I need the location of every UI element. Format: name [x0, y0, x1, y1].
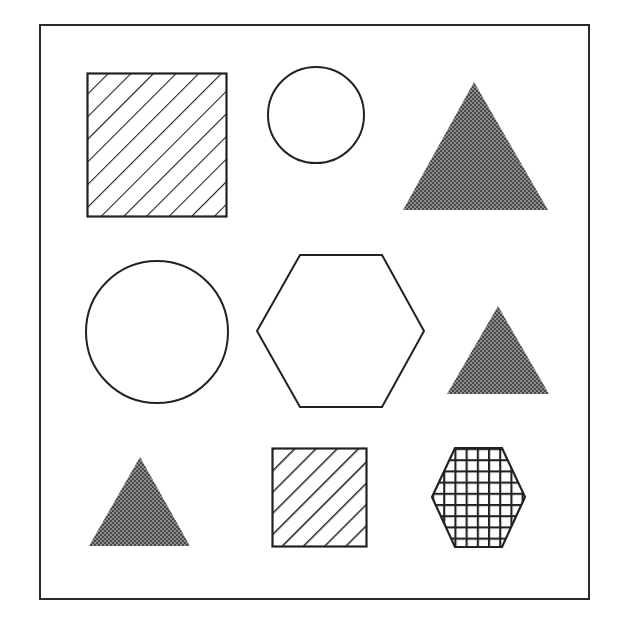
- shapes-diagram: [0, 0, 619, 625]
- square-small-hatched: [273, 449, 367, 547]
- square-large-hatched: [88, 74, 227, 217]
